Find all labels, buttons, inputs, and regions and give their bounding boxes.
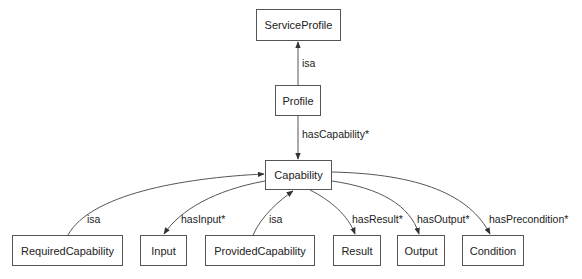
edge-label-provided-isa: isa xyxy=(269,213,282,225)
node-label: Capability xyxy=(274,169,322,181)
edge-capability-hasinput xyxy=(164,181,265,234)
node-label: Profile xyxy=(282,95,313,107)
edge-label-hasinput: hasInput* xyxy=(181,213,225,225)
edge-label-hasoutput: hasOutput* xyxy=(417,213,470,225)
node-profile: Profile xyxy=(275,85,321,116)
edge-required-isa-capability xyxy=(68,174,264,235)
node-provided-capability: ProvidedCapability xyxy=(205,235,315,266)
node-service-profile: ServiceProfile xyxy=(256,9,341,41)
node-label: RequiredCapability xyxy=(21,245,114,257)
edge-label-profile-isa: isa xyxy=(302,57,315,69)
node-result: Result xyxy=(333,235,381,266)
edge-label-hasprecondition: hasPrecondition* xyxy=(489,213,568,225)
node-label: Input xyxy=(151,245,175,257)
edge-label-hascapability: hasCapability* xyxy=(302,128,369,140)
edge-label-required-isa: isa xyxy=(87,213,100,225)
edge-capability-hasoutput xyxy=(332,181,419,234)
node-label: Condition xyxy=(470,245,516,257)
node-required-capability: RequiredCapability xyxy=(12,235,123,266)
node-input: Input xyxy=(140,235,187,266)
node-label: ProvidedCapability xyxy=(214,245,306,257)
edge-capability-hasresult xyxy=(310,190,355,234)
node-label: ServiceProfile xyxy=(265,19,333,31)
node-output: Output xyxy=(397,235,445,266)
edge-label-hasresult: hasResult* xyxy=(352,213,403,225)
node-condition: Condition xyxy=(462,235,524,266)
node-label: Result xyxy=(341,245,372,257)
node-capability: Capability xyxy=(265,160,332,190)
node-label: Output xyxy=(404,245,437,257)
